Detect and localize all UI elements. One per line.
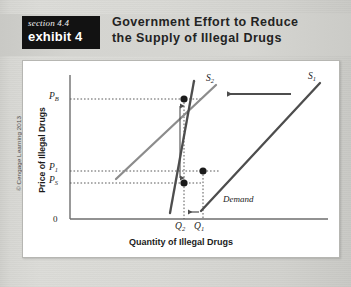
curve-label-s1: S1: [308, 71, 316, 81]
chart-card: Price of Illegal Drugs Quantity of Illeg…: [22, 60, 340, 258]
x-tick-q1-sub: 1: [201, 225, 204, 232]
origin-label: 0: [53, 214, 58, 224]
x-tick-q1: Q1: [194, 221, 204, 231]
x-tick-q2-text: Q: [175, 221, 182, 231]
y-tick-ps-text: P: [49, 175, 55, 185]
exhibit-title-line-2: the Supply of Illegal Drugs: [112, 30, 344, 46]
y-tick-pb-text: P: [49, 91, 55, 101]
y-tick-ps: PS: [49, 175, 58, 185]
exhibit-title: Government Effort to Reduce the Supply o…: [112, 14, 344, 46]
curve-label-demand: Demand: [223, 194, 254, 204]
y-tick-p1-sub: 1: [55, 166, 58, 173]
curve-supply-s1: [201, 83, 320, 211]
y-tick-p1: P1: [49, 162, 58, 172]
copyright-notice: © Cengage Learning 2013: [15, 98, 22, 210]
curve-label-s1-sub: 1: [313, 75, 316, 82]
curve-label-s2-sub: 2: [211, 77, 214, 84]
x-tick-q1-text: Q: [194, 221, 201, 231]
x-axis-title: Quantity of Illegal Drugs: [23, 237, 339, 247]
exhibit-title-line-1: Government Effort to Reduce: [112, 14, 344, 30]
y-tick-p1-text: P: [49, 162, 55, 172]
x-tick-q2-sub: 2: [182, 225, 185, 232]
section-badge: section 4.4 exhibit 4: [22, 16, 100, 49]
curve-label-s2: S2: [206, 73, 214, 83]
x-tick-q2: Q2: [175, 221, 185, 231]
y-tick-ps-sub: S: [55, 179, 58, 186]
y-axis-title: Price of Illegal Drugs: [37, 86, 47, 214]
exhibit-label: exhibit 4: [28, 29, 100, 44]
point-new-equilibrium: [180, 95, 187, 102]
exhibit-page: section 4.4 exhibit 4 Government Effort …: [0, 0, 351, 287]
y-tick-pb-sub: B: [55, 95, 59, 102]
y-tick-pb: PB: [49, 91, 59, 101]
point-seller-price: [180, 179, 187, 186]
point-original-equilibrium: [199, 167, 206, 174]
section-label: section 4.4: [28, 18, 100, 29]
